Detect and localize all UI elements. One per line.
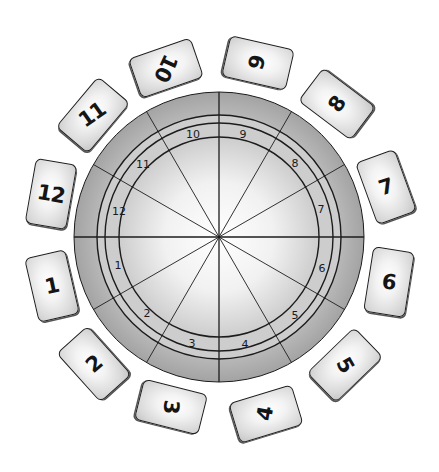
card-number: 12 [36, 181, 66, 206]
card-number: 5 [333, 354, 358, 376]
house-number-2: 2 [144, 307, 151, 320]
house-number-4: 4 [242, 338, 249, 351]
card-number: 9 [246, 54, 270, 73]
house-number-1: 1 [115, 259, 122, 272]
diagram-stage: 123456789101112 123456789101112 [0, 0, 439, 472]
house-number-6: 6 [319, 262, 326, 275]
card-number: 7 [376, 175, 395, 199]
house-number-3: 3 [189, 337, 196, 350]
house-number-7: 7 [318, 203, 325, 216]
house-number-9: 9 [240, 128, 247, 141]
house-number-12: 12 [112, 205, 126, 218]
house-number-5: 5 [292, 309, 299, 322]
card-number: 4 [254, 405, 277, 422]
card-number: 8 [324, 92, 349, 115]
card-number: 10 [151, 51, 182, 85]
card-number: 3 [160, 399, 182, 414]
house-number-10: 10 [186, 128, 200, 141]
card-number: 6 [381, 271, 397, 294]
house-wheel: 123456789101112 [0, 0, 439, 472]
card-number: 11 [76, 99, 110, 132]
house-number-11: 11 [136, 158, 150, 171]
card-number: 2 [82, 352, 106, 377]
house-number-8: 8 [292, 157, 299, 170]
card-number: 1 [43, 274, 61, 297]
